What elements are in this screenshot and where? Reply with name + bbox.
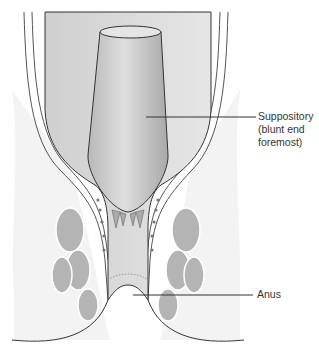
label-suppository: Suppository (blunt end foremost)	[258, 110, 313, 149]
label-line: Anus	[257, 288, 281, 301]
suppository	[88, 26, 168, 212]
label-line: Suppository	[258, 110, 313, 123]
label-line: foremost)	[258, 136, 313, 149]
label-anus: Anus	[257, 288, 281, 301]
label-line: (blunt end	[258, 123, 313, 136]
anatomy-illustration	[0, 0, 319, 360]
